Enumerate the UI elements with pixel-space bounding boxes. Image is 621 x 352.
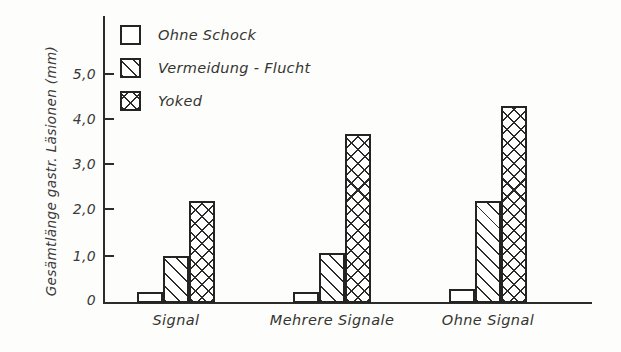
- y-tick-mark-3: [105, 163, 114, 165]
- bar-yoked-group-1: [189, 201, 215, 303]
- legend-item-vermeidung-flucht: Vermeidung - Flucht: [120, 51, 310, 84]
- legend: Ohne Schock Vermeidung - Flucht Yoked: [120, 18, 310, 117]
- x-axis-group-label-ohne-signal: Ohne Signal: [398, 312, 578, 328]
- y-tick-label-5: 5,0: [52, 66, 96, 82]
- y-tick-label-1: 1,0: [52, 248, 96, 264]
- cross-hatch-square-icon: [120, 91, 141, 111]
- legend-label-ohne-schock: Ohne Schock: [158, 27, 256, 43]
- bar-yoked-group-3: [501, 106, 527, 303]
- x-axis-group-label-mehrere-signale: Mehrere Signale: [242, 312, 422, 328]
- bar-vermeidung-flucht-group-2: [319, 253, 345, 303]
- y-tick-label-4: 4,0: [52, 111, 96, 127]
- bar-ohne-schock-group-2: [293, 292, 319, 303]
- y-tick-label-2: 2,0: [52, 201, 96, 217]
- legend-item-yoked: Yoked: [120, 84, 310, 117]
- y-tick-label-0: 0: [52, 292, 96, 308]
- bar-chart-figure: Gesämtlänge gastr. Läsionen (mm) 5,0 4,0…: [0, 0, 621, 352]
- y-tick-label-3: 3,0: [52, 156, 96, 172]
- legend-label-vermeidung-flucht: Vermeidung - Flucht: [158, 60, 310, 76]
- y-tick-mark-1: [105, 255, 114, 257]
- y-tick-mark-5: [105, 73, 114, 75]
- bar-yoked-group-2: [345, 134, 371, 304]
- y-tick-mark-4: [105, 118, 114, 120]
- x-axis-group-label-signal: Signal: [86, 312, 266, 328]
- y-axis-line: [103, 16, 105, 304]
- bar-ohne-schock-group-1: [137, 292, 163, 303]
- plain-square-icon: [120, 25, 141, 45]
- y-tick-mark-2: [105, 208, 114, 210]
- diagonal-hatch-square-icon: [120, 58, 141, 78]
- bar-vermeidung-flucht-group-1: [163, 256, 189, 303]
- legend-item-ohne-schock: Ohne Schock: [120, 18, 310, 51]
- bar-vermeidung-flucht-group-3: [475, 201, 501, 303]
- bar-ohne-schock-group-3: [449, 289, 475, 303]
- legend-label-yoked: Yoked: [158, 93, 202, 109]
